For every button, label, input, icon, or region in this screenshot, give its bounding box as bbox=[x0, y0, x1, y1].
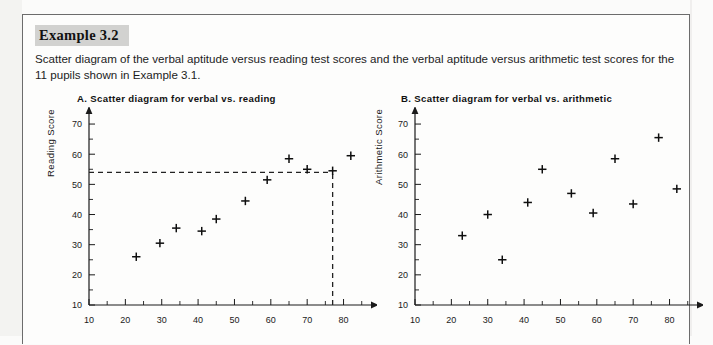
data-point-marker bbox=[654, 133, 662, 141]
chart-a-title: A. Scatter diagram for verbal vs. readin… bbox=[77, 93, 276, 104]
chart-b-y-axis-label: Arithmetic Score bbox=[373, 109, 384, 185]
data-point-marker bbox=[172, 224, 180, 232]
y-tick-label: 30 bbox=[72, 240, 82, 250]
data-point-marker bbox=[673, 185, 681, 193]
x-tick-label: 80 bbox=[339, 315, 349, 325]
data-point-marker bbox=[212, 215, 220, 223]
chart-a-y-axis-label: Reading Score bbox=[45, 109, 56, 177]
data-point-marker bbox=[629, 200, 637, 208]
x-tick-label: 50 bbox=[229, 315, 239, 325]
y-tick-label: 50 bbox=[72, 180, 82, 190]
y-tick-label: 60 bbox=[72, 150, 82, 160]
data-point-marker bbox=[285, 155, 293, 163]
chart-b-block: B. Scatter diagram for verbal vs. arithm… bbox=[373, 93, 703, 345]
x-tick-label: 40 bbox=[519, 315, 529, 325]
x-tick-label: 10 bbox=[410, 315, 420, 325]
data-point-marker bbox=[538, 165, 546, 173]
data-point-marker bbox=[347, 152, 355, 160]
chart-b-svg: 102030405060708010203040506070 bbox=[373, 107, 703, 339]
x-tick-label: 70 bbox=[628, 315, 638, 325]
data-point-marker bbox=[458, 231, 466, 239]
y-tick-label: 30 bbox=[398, 240, 408, 250]
data-point-marker bbox=[198, 227, 206, 235]
example-header-banner: Example 3.2 bbox=[35, 25, 129, 46]
data-point-marker bbox=[484, 210, 492, 218]
data-point-marker bbox=[589, 209, 597, 217]
data-point-marker bbox=[328, 167, 336, 175]
chart-a-plot-area: Reading Score 10203040506070801020304050… bbox=[47, 107, 377, 339]
y-tick-label: 20 bbox=[398, 270, 408, 280]
example-box: Example 3.2 Scatter diagram of the verba… bbox=[22, 14, 690, 344]
data-point-marker bbox=[132, 253, 140, 261]
chart-b-title: B. Scatter diagram for verbal vs. arithm… bbox=[401, 93, 612, 104]
x-axis-arrow bbox=[697, 302, 703, 309]
data-point-marker bbox=[303, 165, 311, 173]
x-tick-label: 70 bbox=[302, 315, 312, 325]
y-tick-label: 50 bbox=[398, 180, 408, 190]
x-tick-label: 40 bbox=[193, 315, 203, 325]
data-point-marker bbox=[498, 256, 506, 264]
data-point-marker bbox=[241, 197, 249, 205]
y-tick-label: 60 bbox=[398, 150, 408, 160]
x-tick-label: 60 bbox=[592, 315, 602, 325]
x-tick-label: 30 bbox=[483, 315, 493, 325]
x-tick-label: 60 bbox=[266, 315, 276, 325]
data-point-marker bbox=[567, 189, 575, 197]
y-tick-label: 10 bbox=[72, 300, 82, 310]
data-point-marker bbox=[524, 198, 532, 206]
y-tick-label: 20 bbox=[72, 270, 82, 280]
chart-a-block: A. Scatter diagram for verbal vs. readin… bbox=[47, 93, 377, 345]
x-tick-label: 20 bbox=[446, 315, 456, 325]
y-tick-label: 40 bbox=[72, 210, 82, 220]
x-tick-label: 30 bbox=[157, 315, 167, 325]
y-tick-label: 70 bbox=[398, 119, 408, 129]
y-tick-label: 40 bbox=[398, 210, 408, 220]
data-point-marker bbox=[611, 155, 619, 163]
x-tick-label: 80 bbox=[665, 315, 675, 325]
chart-b-plot-area: Arithmetic Score 10203040506070801020304… bbox=[373, 107, 703, 339]
y-tick-label: 10 bbox=[398, 300, 408, 310]
y-tick-label: 70 bbox=[72, 119, 82, 129]
x-tick-label: 20 bbox=[120, 315, 130, 325]
data-point-marker bbox=[156, 239, 164, 247]
chart-a-svg: 102030405060708010203040506070 bbox=[47, 107, 377, 339]
page-scan-left-edge bbox=[0, 0, 22, 336]
y-axis-arrow bbox=[412, 107, 419, 114]
y-axis-arrow bbox=[86, 107, 93, 114]
data-point-marker bbox=[263, 176, 271, 184]
example-description: Scatter diagram of the verbal aptitude v… bbox=[35, 51, 675, 82]
x-tick-label: 10 bbox=[84, 315, 94, 325]
x-tick-label: 50 bbox=[555, 315, 565, 325]
example-header-label: Example 3.2 bbox=[39, 27, 119, 43]
